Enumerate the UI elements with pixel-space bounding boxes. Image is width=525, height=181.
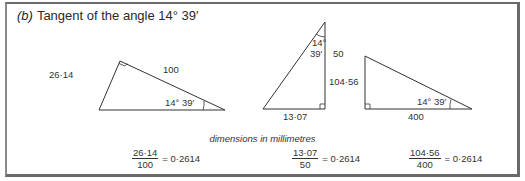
triangle-3-adjacent-label: 400: [408, 111, 424, 122]
triangle-3: 104·56 14° 39′ 400: [329, 56, 472, 122]
triangle-2-outline: [263, 22, 325, 109]
triangle-2-angle-minutes: 39′: [310, 48, 323, 59]
triangle-1-outline: [99, 61, 225, 110]
equation-result: = 0·2614: [445, 153, 483, 164]
triangle-1-hypotenuse-label: 100: [163, 64, 179, 75]
fraction: 104·56 400: [409, 147, 441, 170]
numerator: 13·07: [292, 147, 318, 159]
denominator: 100: [137, 159, 153, 170]
numerator: 26·14: [132, 147, 158, 159]
denominator: 50: [300, 159, 311, 170]
angle-arc: [450, 100, 451, 110]
triangle-2: 14° 39′ 50 13·07: [263, 22, 344, 122]
triangle-2-adjacent-label: 50: [333, 48, 344, 59]
equation-result: = 0·2614: [162, 153, 200, 164]
angle-arc: [203, 101, 204, 110]
triangle-1: 26·14 100 14° 39′: [49, 61, 225, 110]
equation-result: = 0·2614: [322, 153, 360, 164]
denominator: 400: [417, 159, 433, 170]
equation-3: 104·56 400 = 0·2614: [409, 147, 482, 170]
fraction: 26·14 100: [132, 147, 158, 170]
right-angle-marker: [365, 104, 370, 109]
numerator: 104·56: [409, 147, 441, 159]
triangle-3-angle-label: 14° 39′: [417, 96, 447, 107]
fraction: 13·07 50: [292, 147, 318, 170]
dimensions-caption: dimensions in millimetres: [0, 133, 525, 144]
triangle-1-angle-label: 14° 39′: [165, 97, 195, 108]
triangle-3-opposite-label: 104·56: [329, 76, 359, 87]
triangle-1-opposite-label: 26·14: [49, 69, 73, 80]
equation-1: 26·14 100 = 0·2614: [132, 147, 200, 170]
triangle-2-angle-degrees: 14°: [312, 37, 327, 48]
equation-2: 13·07 50 = 0·2614: [292, 147, 360, 170]
right-angle-marker: [320, 104, 325, 109]
triangle-2-opposite-label: 13·07: [283, 111, 307, 122]
